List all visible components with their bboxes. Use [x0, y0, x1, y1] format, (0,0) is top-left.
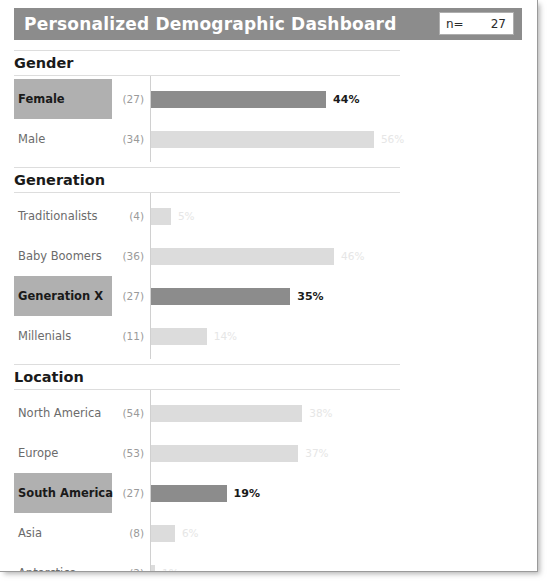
bar-value-label: 56% — [381, 133, 404, 145]
bar-container: 56% — [151, 119, 538, 159]
bar — [151, 131, 374, 148]
sample-size-value: 27 — [491, 17, 506, 31]
sample-size-label: n= — [446, 17, 464, 31]
bar-row[interactable]: Baby Boomers(36)46% — [0, 236, 538, 276]
bar-container: 6% — [151, 513, 538, 553]
bar-container: 5% — [151, 196, 538, 236]
bar — [151, 405, 302, 422]
category-label[interactable]: Asia — [14, 513, 112, 553]
bar-row[interactable]: South America(27)19% — [0, 473, 538, 513]
category-count: (11) — [112, 316, 144, 356]
category-label[interactable]: Millenials — [14, 316, 112, 356]
section-generation: GenerationTraditionalists(4)5%Baby Boome… — [0, 167, 538, 359]
category-count: (53) — [112, 433, 144, 473]
section-rows: North America(54)38%Europe(53)37%South A… — [0, 390, 538, 572]
bar-row[interactable]: Traditionalists(4)5% — [0, 196, 538, 236]
category-label[interactable]: Traditionalists — [14, 196, 112, 236]
category-count: (34) — [112, 119, 144, 159]
bar — [151, 248, 334, 265]
bar-container: 35% — [151, 276, 538, 316]
bar-row[interactable]: Asia(8)6% — [0, 513, 538, 553]
dashboard-sheet: Personalized Demographic Dashboard n= 27… — [0, 0, 538, 572]
bar-value-label: 19% — [234, 487, 260, 500]
category-count: (2) — [112, 553, 144, 572]
section-title: Generation — [14, 172, 105, 188]
category-count: (8) — [112, 513, 144, 553]
bar-container: 1% — [151, 553, 538, 572]
bar — [151, 565, 155, 573]
category-count: (27) — [112, 473, 144, 513]
bar-value-label: 35% — [297, 290, 323, 303]
dashboard-title-bar: Personalized Demographic Dashboard n= 27 — [14, 8, 522, 40]
category-count: (54) — [112, 393, 144, 433]
category-count: (36) — [112, 236, 144, 276]
bar — [151, 208, 171, 225]
category-label[interactable]: North America — [14, 393, 112, 433]
category-label[interactable]: Generation X — [14, 276, 112, 316]
category-count: (27) — [112, 79, 144, 119]
bar — [151, 485, 227, 502]
bar-value-label: 14% — [214, 330, 237, 342]
bar-row[interactable]: Antarctica(2)1% — [0, 553, 538, 572]
section-gender: GenderFemale(27)44%Male(34)56% — [0, 50, 538, 162]
bar-value-label: 37% — [305, 447, 328, 459]
bar-row[interactable]: Generation X(27)35% — [0, 276, 538, 316]
bar — [151, 525, 175, 542]
bar-container: 19% — [151, 473, 538, 513]
bar-row[interactable]: Europe(53)37% — [0, 433, 538, 473]
bar — [151, 91, 326, 108]
bar-container: 38% — [151, 393, 538, 433]
bar-row[interactable]: North America(54)38% — [0, 393, 538, 433]
bar-row[interactable]: Female(27)44% — [0, 79, 538, 119]
bar-value-label: 44% — [333, 93, 359, 106]
section-rows: Female(27)44%Male(34)56% — [0, 76, 538, 162]
page-title: Personalized Demographic Dashboard — [24, 14, 397, 34]
category-count: (27) — [112, 276, 144, 316]
section-header: Location — [14, 364, 400, 390]
category-label[interactable]: Europe — [14, 433, 112, 473]
bar-value-label: 46% — [341, 250, 364, 262]
bar — [151, 288, 290, 305]
section-rows: Traditionalists(4)5%Baby Boomers(36)46%G… — [0, 193, 538, 359]
bar-value-label: 5% — [178, 210, 195, 222]
bar — [151, 328, 207, 345]
sample-size-field[interactable]: n= 27 — [439, 12, 514, 35]
category-label[interactable]: Female — [14, 79, 112, 119]
bar-container: 37% — [151, 433, 538, 473]
bar-value-label: 38% — [309, 407, 332, 419]
bar-value-label: 6% — [182, 527, 199, 539]
bar-container: 44% — [151, 79, 538, 119]
section-title: Gender — [14, 55, 73, 71]
bar-container: 14% — [151, 316, 538, 356]
section-header: Gender — [14, 50, 400, 76]
category-label[interactable]: Male — [14, 119, 112, 159]
bar-container: 46% — [151, 236, 538, 276]
section-title: Location — [14, 369, 84, 385]
section-location: LocationNorth America(54)38%Europe(53)37… — [0, 364, 538, 572]
section-header: Generation — [14, 167, 400, 193]
bar-row[interactable]: Male(34)56% — [0, 119, 538, 159]
bar-row[interactable]: Millenials(11)14% — [0, 316, 538, 356]
bar — [151, 445, 298, 462]
bar-value-label: 1% — [162, 567, 179, 572]
category-label[interactable]: Antarctica — [14, 553, 112, 572]
category-label[interactable]: South America — [14, 473, 112, 513]
category-count: (4) — [112, 196, 144, 236]
category-label[interactable]: Baby Boomers — [14, 236, 112, 276]
